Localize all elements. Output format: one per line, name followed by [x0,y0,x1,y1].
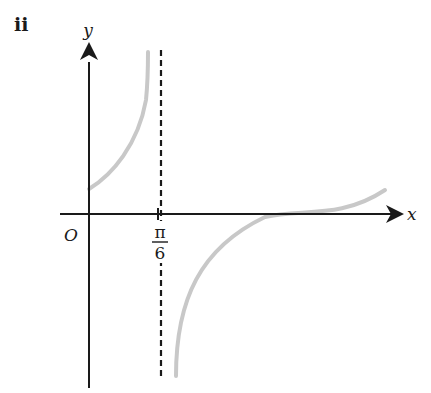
graph: ii y x O π 6 [0,0,431,393]
x-axis-label: x [407,204,417,224]
asymptote-label-denominator: 6 [155,243,166,263]
asymptote-label-numerator: π [154,222,165,242]
origin-label: O [64,225,78,245]
y-axis-arrow-icon [80,42,98,60]
y-axis-label: y [82,20,93,40]
part-label: ii [14,13,28,35]
curve-right-branch [176,190,385,376]
curve-left-branch [89,52,148,189]
